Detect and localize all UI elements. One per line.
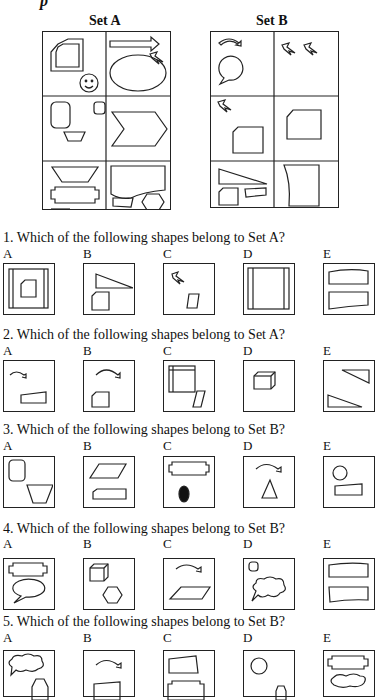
q5-label-b: B [83,630,92,646]
q4-label-a: A [3,536,12,552]
notched-rect-icon [51,187,99,203]
ellipse-icon [110,55,166,91]
arrow-icon [110,37,159,51]
q1-label-d: D [243,246,252,262]
section-heading-fragment: p [40,0,48,10]
q4-option-d[interactable] [243,558,295,610]
q3-option-b[interactable] [83,456,135,508]
q2-label-c: C [163,343,172,359]
question-4: 4. Which of the following shapes belong … [3,521,285,537]
q5-option-e[interactable] [323,650,375,697]
q2-label-e: E [323,343,331,359]
q5-option-d[interactable] [243,650,295,697]
q5-label-d: D [243,630,252,646]
q2-option-c[interactable] [163,360,215,412]
beveled-frame-icon [51,39,83,71]
q1-option-e[interactable] [323,263,375,315]
inverted-trapezoid-icon [52,167,98,182]
q1-option-d[interactable] [243,263,295,315]
q3-label-b: B [83,438,92,454]
q2-label-b: B [83,343,92,359]
q3-option-e[interactable] [323,456,375,508]
q4-label-e: E [323,536,331,552]
q1-label-a: A [3,246,12,262]
q2-label-a: A [3,343,12,359]
q4-option-b[interactable] [83,558,135,610]
q1-option-b[interactable] [83,263,135,315]
q3-label-c: C [163,438,172,454]
q1-label-b: B [83,246,92,262]
q5-option-a[interactable] [3,650,55,697]
q3-option-d[interactable] [243,456,295,508]
question-5: 5. Which of the following shapes belong … [3,614,285,630]
small-quad-icon [113,198,133,207]
lightning-icon [218,100,231,112]
q3-option-c[interactable] [163,456,215,508]
q1-option-a[interactable] [3,263,55,315]
q3-label-d: D [243,438,252,454]
smiley-icon [80,74,98,92]
hexagon-icon [142,194,164,209]
curved-rect-icon [284,165,319,206]
small-quad-icon [245,188,266,197]
question-2: 2. Which of the following shapes belong … [3,327,285,343]
q2-option-d[interactable] [243,360,295,412]
beveled-square-icon [219,188,238,205]
question-1: 1. Which of the following shapes belong … [3,230,285,246]
q5-label-c: C [163,630,172,646]
q1-label-c: C [163,246,172,262]
q2-option-a[interactable] [3,360,55,412]
speech-bubble-icon [219,56,243,84]
right-triangle-icon [219,169,267,184]
q2-option-e[interactable] [323,360,375,412]
set-a-title: Set A [89,13,121,29]
question-3: 3. Which of the following shapes belong … [3,422,285,438]
q4-option-e[interactable] [323,558,375,610]
beveled-square-icon [233,127,263,153]
q4-label-c: C [163,536,172,552]
lightning-icon [282,43,295,55]
q4-label-b: B [83,536,92,552]
q5-option-c[interactable] [163,650,215,697]
q5-label-e: E [323,630,331,646]
q3-label-e: E [323,438,331,454]
q1-option-c[interactable] [163,263,215,315]
q2-label-d: D [243,343,252,359]
q5-label-a: A [3,630,12,646]
lightning-icon [304,43,317,55]
beveled-square-icon [287,110,321,139]
chevron-shape-icon [112,112,167,146]
curved-arrow-icon [219,39,241,46]
set-a-grid [42,31,171,210]
q4-label-d: D [243,536,252,552]
q1-label-e: E [323,246,331,262]
q3-label-a: A [3,438,12,454]
trapezoid-icon [64,132,85,141]
q3-option-a[interactable] [3,456,55,508]
q4-option-c[interactable] [163,558,215,610]
rounded-rect-icon [51,102,70,128]
q5-option-b[interactable] [83,650,135,697]
q2-option-b[interactable] [83,360,135,412]
set-b-grid [210,31,339,208]
small-rounded-square-icon [94,102,105,114]
q4-option-a[interactable] [3,558,55,610]
set-b-title: Set B [256,13,288,29]
